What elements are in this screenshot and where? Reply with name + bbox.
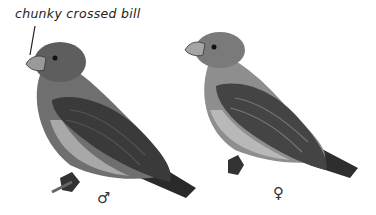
male-crossbill-illustration (0, 0, 200, 215)
female-symbol: ♀ (273, 186, 284, 201)
male-symbol: ♂ (97, 191, 110, 206)
